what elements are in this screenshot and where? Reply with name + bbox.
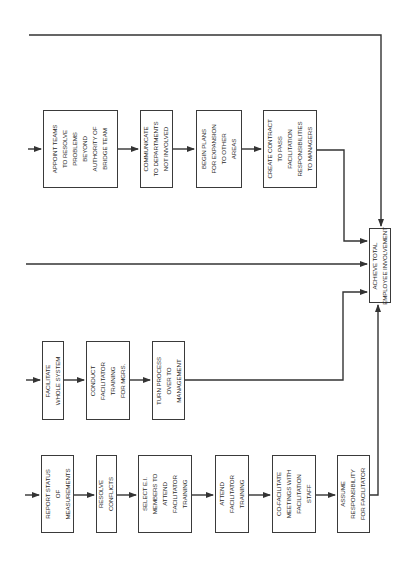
step-resolve-conflicts: RESOLVE CONFLICTS: [96, 455, 117, 533]
step-label: FACILITATE WHOLE SYSTEM: [43, 356, 63, 405]
step-assume-responsibility: ASSUME RESPONSIBILITY FOR FACILITATOR: [337, 455, 370, 533]
step-communicate-departments: COMMUNICATE TO DEPARTMENTS NOT INVOLVED: [140, 110, 173, 188]
step-begin-plans-expansion: BEGIN PLANS FOR EXPANSION TO OTHER AREAS: [196, 110, 242, 188]
goal-achieve-total-employee-involvement: ACHIEVE TOTAL EMPLOYEE INVOLVEMENT: [369, 228, 391, 303]
step-label: COMMUNICATE TO DEPARTMENTS NOT INVOLVED: [142, 122, 172, 177]
step-turn-process-over: TURN PROCESS OVER TO MANAGEMENT: [152, 341, 185, 420]
step-label: CO-FACILITATE MEETINGS WITH FACILITATION…: [274, 470, 314, 519]
step-report-status: REPORT STATUS OF MEASUREMENTS: [41, 455, 74, 533]
step-label: TURN PROCESS OVER TO MANAGEMENT: [154, 357, 184, 405]
step-label: ATTEND FACILITATOR TRAINING: [217, 475, 247, 513]
step-label: RESOLVE CONFLICTS: [97, 477, 117, 511]
step-conduct-facilitator-training: CONDUCT FACILITATOR TRAINING FOR MGRS.: [86, 341, 130, 420]
step-label: REPORT STATUS OF MEASUREMENTS: [43, 468, 73, 519]
step-appoint-teams: APPOINT TEAMS TO RESOLVE PROBLEMS BEYOND…: [43, 110, 118, 188]
step-select-ei-members: SELECT E.I. MEMBERS TO ATTEND FACILITATO…: [138, 455, 192, 533]
step-label: APPOINT TEAMS TO RESOLVE PROBLEMS BEYOND…: [50, 125, 110, 174]
step-label: SELECT E.I. MEMBERS TO ATTEND FACILITATO…: [140, 474, 190, 514]
step-label: CREATE CONTRACT TO PASS FACILITATION RES…: [265, 119, 315, 178]
goal-label: ACHIEVE TOTAL EMPLOYEE INVOLVEMENT: [370, 227, 390, 305]
step-create-contract: CREATE CONTRACT TO PASS FACILITATION RES…: [263, 110, 317, 188]
step-label: CONDUCT FACILITATOR TRAINING FOR MGRS.: [88, 362, 128, 400]
step-facilitate-whole-system: FACILITATE WHOLE SYSTEM: [42, 341, 64, 420]
step-attend-facilitator-training: ATTEND FACILITATOR TRAINING: [215, 455, 249, 533]
flowchart: APPOINT TEAMS TO RESOLVE PROBLEMS BEYOND…: [0, 0, 412, 571]
step-co-facilitate-meetings: CO-FACILITATE MEETINGS WITH FACILITATION…: [272, 455, 316, 533]
step-label: BEGIN PLANS FOR EXPANSION TO OTHER AREAS: [199, 124, 239, 173]
step-label: ASSUME RESPONSIBILITY FOR FACILITATOR: [339, 468, 369, 520]
